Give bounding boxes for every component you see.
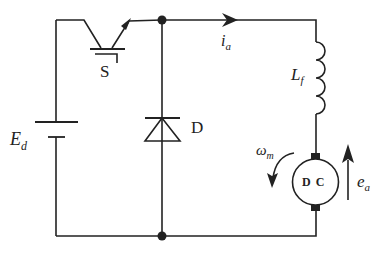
current-label-sub: a: [225, 40, 231, 52]
source-label-main: E: [10, 129, 21, 149]
speed-label: ωm: [256, 143, 274, 161]
motor-brush-bottom: [311, 205, 320, 211]
speed-arrow-icon: [267, 173, 278, 188]
motor-brush-top: [311, 153, 320, 159]
switch-label: S: [100, 63, 109, 80]
emf-label-main: e: [357, 172, 365, 191]
diode-label: D: [191, 119, 203, 136]
speed-label-main: ω: [256, 142, 267, 158]
source-label-sub: d: [21, 139, 27, 153]
chopper-circuit-diagram: [0, 0, 379, 253]
inductor-label-sub: f: [300, 74, 303, 86]
emf-label: ea: [357, 173, 370, 193]
wire-top-right: [162, 20, 316, 42]
source-label: Ed: [10, 130, 27, 152]
wire-top-left: [56, 20, 101, 48]
current-label: ia: [221, 33, 231, 52]
igbt-emitter: [112, 20, 162, 48]
wire-motor-bottom: [56, 211, 316, 236]
emf-label-sub: a: [365, 181, 371, 193]
igbt-emitter-arrow-icon: [121, 18, 131, 30]
motor-label: D C: [302, 176, 325, 188]
speed-label-sub: m: [267, 150, 274, 161]
inductor-label: Lf: [291, 66, 304, 86]
inductor-coil: [316, 42, 325, 114]
